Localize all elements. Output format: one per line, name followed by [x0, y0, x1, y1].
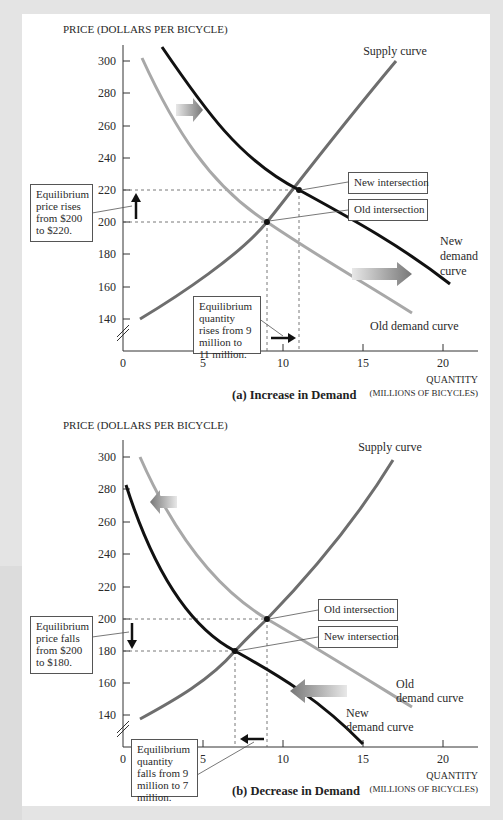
svg-text:curve: curve	[440, 264, 467, 278]
svg-text:5: 5	[200, 752, 206, 766]
quantity-change-note: Equilibrium quantity rises from 9 millio…	[193, 296, 261, 354]
quantity-change-note: Equilibrium quantity falls from 9 millio…	[131, 739, 198, 797]
svg-text:20: 20	[437, 752, 449, 766]
x-axis-subtitle: (MILLIONS OF BICYCLES)	[369, 784, 478, 794]
svg-text:280: 280	[98, 86, 116, 100]
old-intersection-label: Old intersection	[348, 199, 428, 221]
shift-right-arrow	[176, 98, 203, 122]
y-ticks: 300 280 260 240 220 200 180 160 140	[98, 450, 130, 722]
chart-b-caption: (b) Decrease in Demand	[232, 784, 360, 799]
svg-text:140: 140	[98, 708, 116, 722]
svg-text:demand curve: demand curve	[346, 720, 414, 734]
svg-text:0: 0	[120, 356, 126, 370]
svg-text:300: 300	[98, 54, 116, 68]
svg-text:200: 200	[98, 215, 116, 229]
new-intersection-label: New intersection	[348, 172, 428, 194]
svg-text:15: 15	[357, 356, 369, 370]
svg-text:200: 200	[98, 612, 116, 626]
x-axis-subtitle: (MILLIONS OF BICYCLES)	[369, 388, 478, 398]
old-intersection-label: Old intersection	[318, 599, 398, 621]
new-intersection-label: New intersection	[318, 626, 398, 648]
chart-a-caption: (a) Increase in Demand	[232, 388, 356, 403]
svg-text:240: 240	[98, 547, 116, 561]
svg-text:280: 280	[98, 482, 116, 496]
new-demand-label: New	[440, 234, 463, 248]
svg-text:240: 240	[98, 151, 116, 165]
svg-text:10: 10	[277, 356, 289, 370]
svg-text:0: 0	[120, 752, 126, 766]
svg-text:140: 140	[98, 312, 116, 326]
y-axis-title: PRICE (DOLLARS PER BICYCLE)	[63, 23, 228, 36]
svg-text:15: 15	[357, 752, 369, 766]
svg-text:20: 20	[437, 356, 449, 370]
svg-text:300: 300	[98, 450, 116, 464]
svg-text:260: 260	[98, 119, 116, 133]
supply-curve	[140, 460, 393, 719]
svg-text:180: 180	[98, 247, 116, 261]
shift-left-arrow	[150, 490, 177, 514]
price-change-note: Equilibrium price falls from $200 to $18…	[30, 616, 93, 674]
svg-text:10: 10	[277, 752, 289, 766]
old-demand-label: Old	[396, 677, 414, 691]
price-change-note: Equilibrium price rises from $200 to $22…	[30, 184, 93, 242]
svg-text:220: 220	[98, 183, 116, 197]
x-ticks: 0 5 10 15 20	[120, 344, 449, 370]
x-axis-title: QUANTITY	[426, 770, 478, 781]
old-demand-label: Old demand curve	[370, 319, 459, 333]
chart-b: PRICE (DOLLARS PER BICYCLE) 300 280 260 …	[63, 419, 478, 794]
charts-svg: PRICE (DOLLARS PER BICYCLE) 300 280 260 …	[0, 0, 503, 820]
supply-curve-label: Supply curve	[363, 44, 427, 58]
old-intersection-point	[264, 219, 270, 225]
x-axis-title: QUANTITY	[426, 374, 478, 385]
svg-text:160: 160	[98, 676, 116, 690]
supply-curve-label: Supply curve	[358, 440, 422, 454]
svg-text:220: 220	[98, 580, 116, 594]
new-demand-label: New	[346, 706, 369, 720]
svg-text:demand curve: demand curve	[396, 691, 464, 705]
svg-text:demand: demand	[440, 249, 478, 263]
y-axis-title: PRICE (DOLLARS PER BICYCLE)	[63, 419, 228, 432]
svg-text:160: 160	[98, 280, 116, 294]
svg-text:260: 260	[98, 515, 116, 529]
svg-text:180: 180	[98, 644, 116, 658]
shift-left-arrow	[290, 679, 347, 703]
